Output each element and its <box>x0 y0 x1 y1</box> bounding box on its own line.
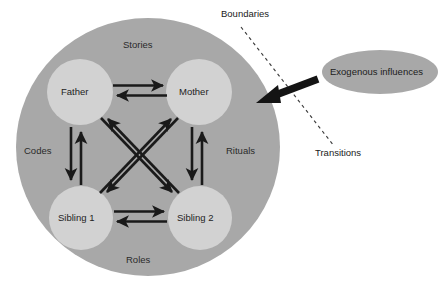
annotation-label-transitions: Transitions <box>315 148 361 158</box>
member-label-mother: Mother <box>179 87 209 97</box>
zone-label-stories: Stories <box>123 40 153 50</box>
member-label-father: Father <box>61 87 88 97</box>
zone-label-roles: Roles <box>126 255 150 265</box>
exogenous-influences-label: Exogenous influences <box>330 67 423 77</box>
diagram-svg <box>0 0 442 286</box>
member-label-sibling-2: Sibling 2 <box>177 213 213 223</box>
zone-label-rituals: Rituals <box>226 146 255 156</box>
member-label-sibling-1: Sibling 1 <box>58 213 94 223</box>
annotation-label-boundaries: Boundaries <box>221 9 269 19</box>
diagram-canvas: Stories Codes Rituals Roles Father Mothe… <box>0 0 442 286</box>
zone-label-codes: Codes <box>24 146 51 156</box>
